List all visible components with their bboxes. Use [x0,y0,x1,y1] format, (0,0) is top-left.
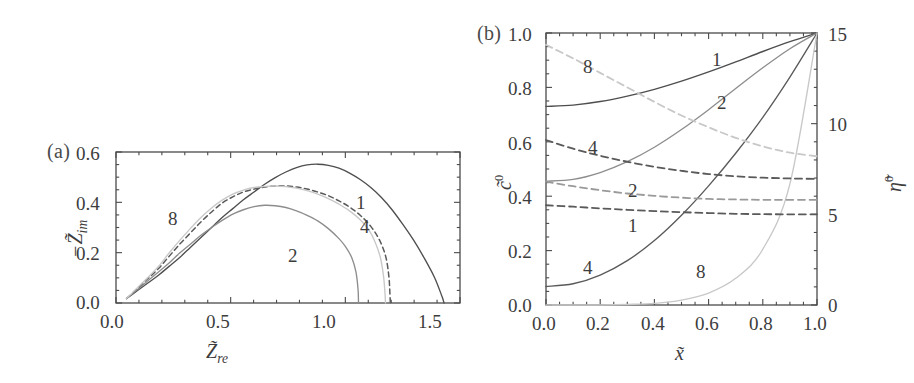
panel-b-xtick-1.0: 1.0 [803,313,827,335]
panel-b-xtick-0.4: 0.4 [641,313,665,335]
panel-b-ytick-left-0.0: 0.0 [508,295,532,317]
panel-b-yaxis-right-superscript: 0 [882,176,896,182]
panel-b-ytick-left-1.0: 1.0 [508,24,532,46]
panel-b-solid-label-1: 1 [712,49,722,71]
panel-b-yaxis-left-title: c̃0 [492,175,516,190]
panel-b-dashed-label-8: 8 [583,56,593,78]
panel-b [0,0,914,383]
panel-b-curve-right-4 [546,140,817,179]
panel-b-curve-right-2 [546,182,817,200]
panel-b-ytick-left-0.4: 0.4 [508,187,532,209]
panel-b-ytick-left-0.8: 0.8 [508,78,532,100]
panel-b-solid-label-4: 4 [583,257,593,279]
panel-b-dashed-label-1: 1 [628,215,638,237]
panel-b-dashed-label-2: 2 [628,180,638,202]
panel-b-ytick-right-5: 5 [828,205,838,227]
panel-b-yaxis-left-superscript: 0 [492,175,506,181]
panel-b-tag: (b) [477,22,501,45]
panel-b-yaxis-right-title: η̃0 [882,176,906,192]
panel-b-solid-label-8: 8 [696,261,706,283]
panel-b-ytick-left-0.2: 0.2 [508,241,532,263]
panel-b-yaxis-right-symbol: η̃ [883,182,905,192]
panel-b-yaxis-left-symbol: c̃ [493,181,515,190]
panel-b-dashed-label-4: 4 [588,137,598,159]
panel-b-ytick-right-15: 15 [828,24,847,46]
panel-b-canvas [0,0,914,383]
figure-root: (a) 0.6 0.4 0.2 0.0 0.0 0.5 1.0 1.5 Z̃re… [0,0,914,383]
panel-b-ytick-left-0.6: 0.6 [508,133,532,155]
panel-b-xtick-0.8: 0.8 [749,313,773,335]
panel-b-xtick-0.0: 0.0 [532,313,556,335]
panel-b-xaxis-title: x̃ [675,342,684,365]
panel-b-ytick-right-10: 10 [828,114,847,136]
panel-b-xtick-0.6: 0.6 [695,313,719,335]
panel-b-ytick-right-0: 0 [828,295,838,317]
panel-b-curve-right-1 [546,205,817,214]
panel-b-solid-label-2: 2 [717,92,727,114]
panel-b-xtick-0.2: 0.2 [586,313,610,335]
